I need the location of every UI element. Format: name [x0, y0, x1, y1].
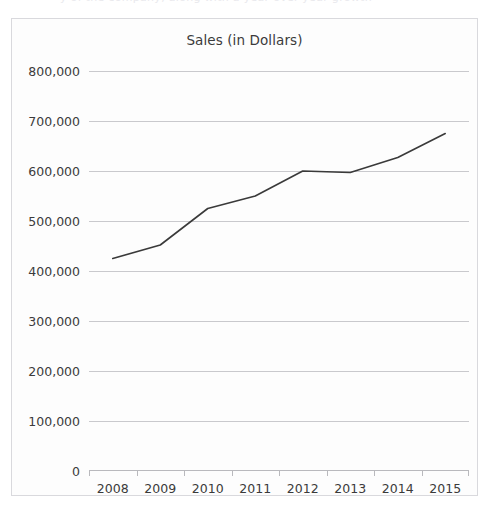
x-axis-tick-mark	[89, 471, 90, 476]
y-axis-tick-label: 100,000	[28, 414, 80, 429]
x-axis-tick-label: 2010	[192, 481, 224, 496]
y-axis-tick-label: 400,000	[28, 264, 80, 279]
x-axis-tick-label: 2012	[287, 481, 319, 496]
x-axis-tick-mark	[137, 471, 138, 476]
x-axis-tick-mark	[468, 471, 469, 476]
cut-off-text-strip: y of the company, along with a year-over…	[0, 0, 499, 12]
x-axis-tick-label: 2009	[144, 481, 176, 496]
chart-container: Sales (in Dollars) 0100,000200,000300,00…	[11, 18, 478, 496]
chart-title: Sales (in Dollars)	[12, 32, 477, 48]
x-axis-tick-mark	[184, 471, 185, 476]
sales-line	[113, 134, 446, 259]
y-axis-tick-label: 200,000	[28, 364, 80, 379]
cut-off-text: y of the company, along with a year-over…	[60, 0, 372, 4]
x-axis-tick-mark	[374, 471, 375, 476]
x-axis-tick-label: 2014	[382, 481, 414, 496]
x-axis-tick-mark	[279, 471, 280, 476]
x-axis-tick-mark	[422, 471, 423, 476]
y-axis-tick-label: 800,000	[28, 64, 80, 79]
x-axis-tick-label: 2008	[97, 481, 129, 496]
y-axis-tick-label: 500,000	[28, 214, 80, 229]
x-axis-tick-mark	[232, 471, 233, 476]
y-axis-tick-label: 300,000	[28, 314, 80, 329]
x-axis-tick-mark	[327, 471, 328, 476]
x-axis-tick-label: 2015	[429, 481, 461, 496]
x-axis-tick-label: 2013	[334, 481, 366, 496]
y-axis-tick-label: 0	[72, 464, 80, 479]
plot-area: 0100,000200,000300,000400,000500,000600,…	[89, 71, 469, 471]
y-axis-tick-label: 600,000	[28, 164, 80, 179]
y-axis-tick-label: 700,000	[28, 114, 80, 129]
data-series-svg	[89, 71, 469, 471]
x-axis-tick-label: 2011	[239, 481, 271, 496]
